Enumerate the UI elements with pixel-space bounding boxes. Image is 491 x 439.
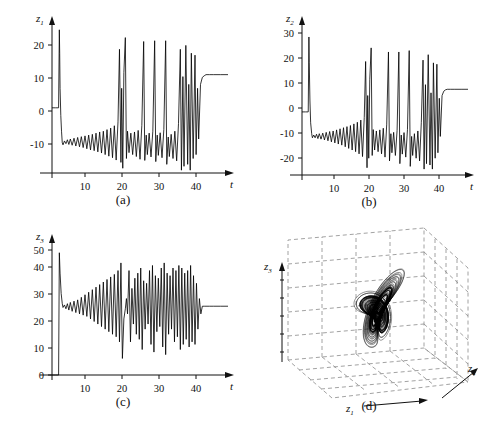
xtick-label: 20 xyxy=(364,183,375,194)
panel-c-yticks: 0 10 20 30 40 50 xyxy=(34,245,53,381)
xtick-label: 20 xyxy=(117,383,128,394)
panel-d-axis-titles: z3 z1 z2 xyxy=(263,260,476,417)
ytick-label: 20 xyxy=(34,316,45,327)
panel-b-yticks: -20 -10 0 10 20 30 xyxy=(280,28,302,164)
ytick-label: -10 xyxy=(280,128,294,139)
panel-c: 0 10 20 30 40 50 10 20 30 40 z3 t xyxy=(0,220,246,439)
panel-caption-a: (a) xyxy=(0,192,246,208)
ytick-label: 50 xyxy=(34,245,45,256)
ytick-label: 10 xyxy=(34,73,45,84)
y-axis-label: z3 xyxy=(35,230,44,245)
xtick-label: 30 xyxy=(154,181,165,192)
series-line-z3 xyxy=(52,253,228,375)
z2-axis-label: z2 xyxy=(467,362,476,377)
y-axis-label: z2 xyxy=(285,12,294,27)
xtick-label: 10 xyxy=(80,181,91,192)
series-line-z1 xyxy=(52,30,228,170)
panel-a-xticks: 10 20 30 40 xyxy=(80,173,202,192)
xtick-label: 10 xyxy=(80,383,91,394)
xtick-label: 30 xyxy=(154,383,165,394)
panel-caption-b: (b) xyxy=(246,194,491,210)
lorenz-attractor-orbit xyxy=(354,269,405,347)
panel-b-plot: -20 -10 0 10 20 30 10 20 30 40 z2 t xyxy=(246,0,491,220)
ytick-label: 30 xyxy=(284,28,295,39)
x-axis-label: t xyxy=(470,180,474,192)
xtick-label: 10 xyxy=(329,183,340,194)
ytick-label: -10 xyxy=(30,139,44,150)
ytick-label: 0 xyxy=(39,370,44,381)
ytick-label: 40 xyxy=(34,262,45,273)
xtick-label: 40 xyxy=(191,181,202,192)
panel-b-axes xyxy=(290,16,474,180)
panel-caption-d: (d) xyxy=(246,398,491,414)
panel-b-xticks: 10 20 30 40 xyxy=(329,175,445,194)
panel-a: -10 0 10 20 10 20 30 40 z1 t (a) xyxy=(0,0,246,220)
ytick-label: 10 xyxy=(284,78,295,89)
xtick-label: 30 xyxy=(399,183,410,194)
xtick-label: 40 xyxy=(191,383,202,394)
panel-caption-c: (c) xyxy=(0,394,246,410)
panel-d: z3 z1 z2 (d) xyxy=(246,220,491,439)
ytick-label: 30 xyxy=(34,289,45,300)
ytick-label: 10 xyxy=(34,343,45,354)
x-axis-label: t xyxy=(230,380,234,392)
panel-b-axis-titles: z2 t xyxy=(285,12,474,192)
panel-a-plot: -10 0 10 20 10 20 30 40 z1 t xyxy=(0,0,246,220)
series-line-z2 xyxy=(302,37,468,169)
panel-c-xticks: 10 20 30 40 xyxy=(80,375,202,394)
panel-a-axes xyxy=(40,16,234,178)
ytick-label: 0 xyxy=(39,106,44,117)
panel-c-axis-titles: z3 t xyxy=(35,230,234,392)
ytick-label: 20 xyxy=(34,40,45,51)
panel-b: -20 -10 0 10 20 30 10 20 30 40 z2 t xyxy=(246,0,491,220)
xtick-label: 40 xyxy=(434,183,445,194)
ytick-label: -20 xyxy=(280,153,294,164)
x-axis-label: t xyxy=(230,178,234,190)
ytick-label: 20 xyxy=(284,53,295,64)
ytick-label: 0 xyxy=(289,103,294,114)
z3-axis-label: z3 xyxy=(263,260,272,275)
xtick-label: 20 xyxy=(117,181,128,192)
y-axis-label: z1 xyxy=(35,12,44,27)
panel-a-yticks: -10 0 10 20 xyxy=(30,40,52,150)
panel-a-axis-titles: z1 t xyxy=(35,12,234,190)
figure-grid: -10 0 10 20 10 20 30 40 z1 t (a) xyxy=(0,0,491,439)
